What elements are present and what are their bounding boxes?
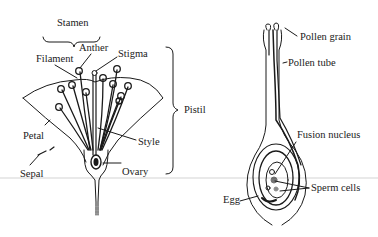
label-stigma: Stigma bbox=[118, 49, 148, 60]
label-anther: Anther bbox=[79, 43, 108, 54]
label-ovary: Ovary bbox=[122, 167, 148, 178]
label-style: Style bbox=[138, 137, 160, 148]
label-pistil: Pistil bbox=[184, 105, 206, 116]
pistil-brace bbox=[166, 47, 178, 174]
label-egg: Egg bbox=[223, 195, 240, 206]
label-stamen: Stamen bbox=[57, 18, 89, 29]
flower-pollination-diagram: Stamen Anther Filament Stigma Pistil Pet… bbox=[0, 0, 378, 237]
label-sepal: Sepal bbox=[20, 169, 43, 180]
label-pollen-tube: Pollen tube bbox=[288, 58, 336, 69]
label-fusion-nucleus: Fusion nucleus bbox=[297, 130, 360, 141]
label-filament: Filament bbox=[36, 54, 73, 65]
label-pollen-grain: Pollen grain bbox=[300, 32, 351, 43]
label-petal: Petal bbox=[23, 131, 44, 142]
label-sperm-cells: Sperm cells bbox=[311, 183, 360, 194]
